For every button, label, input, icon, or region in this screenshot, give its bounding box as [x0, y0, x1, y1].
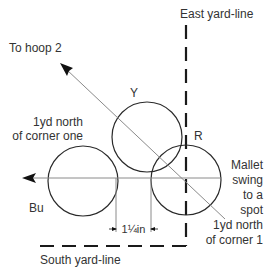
label-left-note-2: of corner one	[12, 129, 83, 143]
label-ball-yellow: Y	[130, 86, 138, 100]
label-east-yard-line: East yard-line	[180, 7, 254, 21]
croquet-diagram: East yard-line To hoop 2 Y R Bu 1yd nort…	[0, 0, 271, 271]
label-left-note-1: 1yd north	[33, 115, 83, 129]
label-mallet-4: spot	[240, 203, 263, 217]
label-south-yard-line: South yard-line	[40, 253, 121, 267]
label-mallet-6: of corner 1	[206, 233, 264, 247]
label-to-hoop: To hoop 2	[9, 41, 62, 55]
label-mallet-5: 1yd north	[213, 218, 263, 232]
label-measurement: 1¼in	[122, 223, 146, 235]
label-mallet-1: Mallet	[231, 158, 264, 172]
ball-blue	[48, 146, 118, 216]
ball-yellow	[112, 102, 182, 172]
label-ball-red: R	[194, 129, 203, 143]
label-mallet-2: swing	[232, 173, 263, 187]
diagonal-guide-line	[66, 69, 225, 219]
label-mallet-3: to a	[243, 188, 263, 202]
label-ball-blue: Bu	[29, 201, 44, 215]
